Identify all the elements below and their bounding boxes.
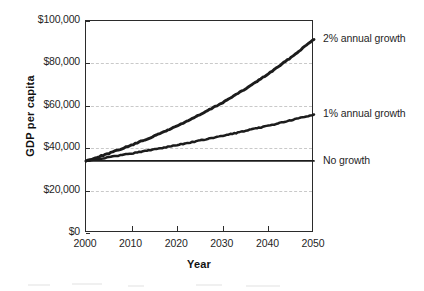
x-axis-tick-label: 2050 <box>290 237 336 249</box>
x-axis-tick-label: 2030 <box>199 237 245 249</box>
scan-artifact <box>28 284 50 286</box>
y-axis-title: GDP per capita <box>24 41 36 191</box>
y-axis-tick-label: $0 <box>69 226 80 237</box>
scan-artifact <box>72 283 102 285</box>
scan-artifact <box>128 285 144 287</box>
x-axis-tick-label: 2020 <box>153 237 199 249</box>
y-axis-tick-label: $20,000 <box>43 184 80 195</box>
gdp-growth-chart: GDP per capita $0$20,000$40,000$60,000$8… <box>0 0 424 291</box>
x-axis-title: Year <box>85 258 313 270</box>
plot-area <box>85 20 313 232</box>
y-axis-tick-label: $80,000 <box>43 56 80 67</box>
x-axis-tick-label: 2000 <box>62 237 108 249</box>
scan-artifact <box>246 285 280 287</box>
scan-artifact <box>196 284 222 286</box>
y-axis-tick-label: $100,000 <box>38 14 80 25</box>
series-line <box>86 39 314 161</box>
series-lines <box>86 21 314 233</box>
series-label: 1% annual growth <box>323 107 405 119</box>
series-line <box>86 114 314 161</box>
y-axis-tick-label: $40,000 <box>43 141 80 152</box>
y-axis-tick-label: $60,000 <box>43 99 80 110</box>
x-axis-tick-label: 2010 <box>108 237 154 249</box>
y-axis-tick <box>86 233 90 234</box>
series-label: No growth <box>323 154 370 166</box>
x-axis-tick-label: 2040 <box>244 237 290 249</box>
series-label: 2% annual growth <box>323 32 405 44</box>
